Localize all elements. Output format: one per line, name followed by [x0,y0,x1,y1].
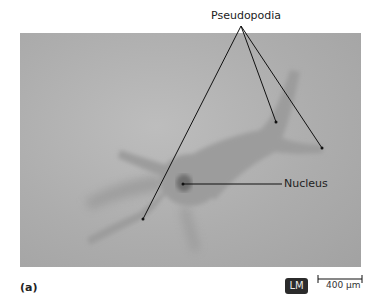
panel-letter: (a) [20,281,37,294]
nucleus-label: Nucleus [284,177,328,190]
scale-bar-label: 400 µm [326,280,361,290]
pseudopodia-label: Pseudopodia [211,9,281,22]
microscopy-type-badge: LM [285,278,308,294]
